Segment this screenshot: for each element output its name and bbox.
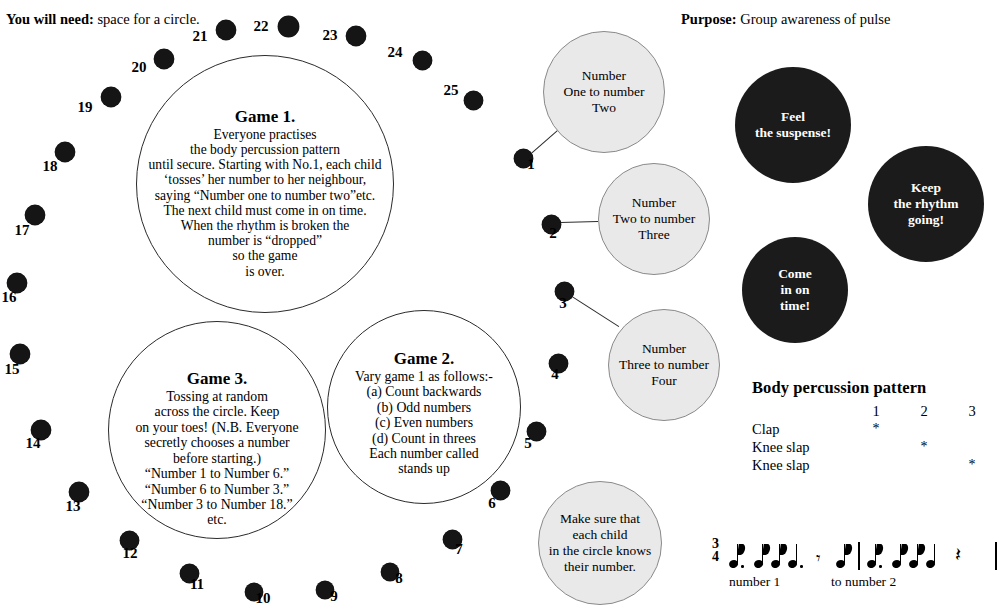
keep-rhythm-going-line: Keep (894, 180, 959, 196)
beat-row-label-spacer (752, 403, 852, 421)
speech-one-to-two-line: Number (564, 68, 645, 84)
feel-the-suspense-line: the suspense! (755, 125, 831, 141)
participant-number-label: 15 (5, 362, 20, 377)
augmentation-dot-icon (741, 565, 744, 568)
augmentation-dot-icon (879, 565, 882, 568)
participant-number-label: 6 (488, 496, 496, 511)
game-2-line: (a) Count backwards (355, 384, 493, 399)
note-flag-icon (844, 544, 853, 555)
speech-two-to-three-line: Three (613, 227, 695, 243)
table-row: Knee slap* (752, 439, 996, 457)
beat-header-3: 3 (948, 403, 996, 421)
participant-number-label: 23 (323, 28, 338, 43)
participant-dot (413, 51, 432, 70)
feel-the-suspense-text: Feelthe suspense! (755, 109, 831, 141)
percussion-beat-mark (852, 457, 900, 475)
game-1-line: number is “dropped” (149, 233, 382, 248)
note-stem-icon (796, 544, 798, 563)
note-flag-icon (900, 544, 909, 555)
speech-one-to-two-text: NumberOne to numberTwo (564, 68, 645, 117)
speech-three-to-four-line: Four (619, 373, 709, 389)
participant-number-label: 1 (527, 157, 535, 172)
game-2-line: stands up (355, 461, 493, 476)
table-row: Knee slap* (752, 457, 996, 475)
music-caption-2: to number 2 (831, 574, 896, 590)
game-1-line: until secure. Starting with No.1, each c… (149, 157, 382, 172)
speech-three-to-four: NumberThree to numberFour (608, 309, 720, 421)
game-3-line: across the circle. Keep (135, 404, 298, 419)
game-3-line: etc. (135, 512, 298, 527)
participant-number-label: 12 (123, 546, 138, 561)
participant-number-label: 11 (190, 577, 204, 592)
game-1-line: is over. (149, 264, 382, 279)
note-flag-icon (779, 544, 788, 555)
percussion-beat-mark: * (948, 457, 996, 475)
game-1-line: Everyone practises (149, 127, 382, 142)
game-3-line: Tossing at random (135, 389, 298, 404)
speech-know-number-line: each child (549, 527, 651, 543)
game-2-text: Game 2.Vary game 1 as follows:-(a) Count… (355, 349, 493, 477)
note-flag-icon (737, 544, 746, 555)
speech-know-number-line: Make sure that (549, 511, 651, 527)
game-3-line: “Number 6 to Number 3.” (135, 482, 298, 497)
percussion-beat-mark (900, 421, 948, 439)
purpose-value: Group awareness of pulse (740, 11, 890, 27)
note-stem-icon (934, 544, 936, 563)
speech-two-to-three-connector-line (560, 221, 598, 223)
game-2-line: (d) Count in threes (355, 431, 493, 446)
participant-number-label: 13 (66, 499, 81, 514)
percussion-row-label: Clap (752, 421, 852, 439)
participant-number-label: 8 (395, 571, 403, 586)
beat-header-1: 1 (852, 403, 900, 421)
augmentation-dot-icon (800, 565, 803, 568)
you-will-need-header: You will need: space for a circle. (6, 12, 200, 27)
participant-dot (101, 87, 121, 107)
keep-rhythm-going-text: Keepthe rhythmgoing! (894, 180, 959, 228)
speech-one-to-two: NumberOne to numberTwo (543, 31, 665, 153)
game-3-text: Game 3.Tossing at randomacross the circl… (135, 369, 298, 528)
game-2-line: Vary game 1 as follows:- (355, 369, 493, 384)
worksheet-page: You will need: space for a circle. Purpo… (0, 0, 999, 616)
percussion-beat-mark (948, 421, 996, 439)
purpose-header: Purpose: Group awareness of pulse (681, 12, 890, 27)
table-row: Clap* (752, 421, 996, 439)
you-will-need-label: You will need: (6, 11, 94, 27)
percussion-row-label: Knee slap (752, 439, 852, 457)
body-percussion-panel: Body percussion pattern 1 2 3 Clap*Knee … (752, 378, 999, 475)
game-3-line: “Number 3 to Number 18.” (135, 497, 298, 512)
body-percussion-rows: Clap*Knee slap*Knee slap* (752, 421, 996, 475)
speech-one-to-two-line: One to number (564, 84, 645, 100)
speech-know-number-text: Make sure thateach childin the circle kn… (549, 511, 651, 576)
come-in-on-time-line: Come (778, 266, 812, 282)
body-percussion-table: 1 2 3 Clap*Knee slap*Knee slap* (752, 403, 996, 475)
percussion-beat-mark: * (852, 421, 900, 439)
speech-three-to-four-line: Number (619, 341, 709, 357)
participant-number-label: 20 (132, 60, 147, 75)
keep-rhythm-going-line: the rhythm (894, 196, 959, 212)
speech-three-to-four-connector-line (571, 296, 619, 327)
participant-number-label: 9 (330, 589, 338, 604)
keep-rhythm-going-circle: Keepthe rhythmgoing! (868, 146, 984, 262)
participant-dot (346, 26, 366, 46)
eighth-rest-icon: 𝄾 (816, 550, 821, 567)
come-in-on-time-line: time! (778, 298, 812, 314)
participant-number-label: 7 (455, 542, 463, 557)
speech-two-to-three-line: Two to number (613, 211, 695, 227)
participant-number-label: 25 (444, 83, 459, 98)
game-1-line: ‘tosses’ her number to her neighbour, (149, 172, 382, 187)
participant-number-label: 19 (78, 100, 93, 115)
time-signature: 3 4 (712, 538, 719, 564)
music-notation: 3 4 𝄾𝄽 number 1 to number 2 (712, 524, 999, 604)
percussion-beat-mark: * (900, 439, 948, 457)
participant-number-label: 3 (559, 296, 567, 311)
music-caption-1: number 1 (729, 574, 780, 590)
speech-two-to-three-text: NumberTwo to numberThree (613, 195, 695, 244)
participant-number-label: 5 (524, 436, 532, 451)
beat-header-2: 2 (900, 403, 948, 421)
participant-number-label: 14 (26, 436, 41, 451)
game-2-line: (c) Even numbers (355, 415, 493, 430)
game-3-title: Game 3. (135, 369, 298, 388)
participant-number-label: 24 (388, 45, 403, 60)
game-1-line: so the game (149, 248, 382, 263)
game-1-text: Game 1.Everyone practisesthe body percus… (149, 107, 382, 279)
